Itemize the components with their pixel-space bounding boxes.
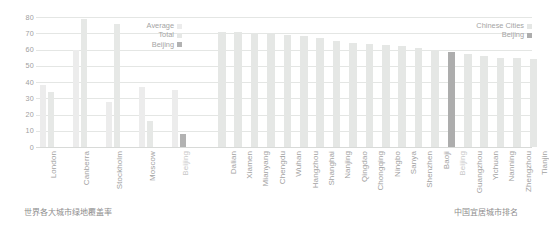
bar-beijing-average — [172, 90, 178, 147]
bar-shanghai — [316, 38, 324, 147]
bar-nanjing — [333, 41, 341, 147]
y-axis: 80706050403020100 — [8, 17, 34, 147]
bar-chongqing — [366, 44, 374, 147]
y-axis-tick-40: 40 — [12, 79, 34, 86]
legend-label: Average — [147, 21, 174, 30]
legend-swatch-icon — [177, 24, 182, 29]
x-axis-label-yichuan: Yichuan — [492, 151, 500, 180]
x-axis-label-hangzhou: Hangzhou — [312, 151, 320, 188]
bar-canberra-total — [81, 19, 87, 147]
x-axis-label-moscow: Moscow — [149, 151, 157, 181]
legend-swatch-icon — [177, 42, 182, 47]
legend-item-beijing: Beijing — [412, 30, 532, 39]
legend-item-chinese-cities: Chinese Cities — [412, 21, 532, 30]
x-axis-label-beijing: Beijing — [182, 151, 190, 176]
bar-moscow-total — [147, 121, 153, 147]
x-axis-label-mianyang: Mianyang — [262, 151, 270, 187]
bar-baoji — [431, 50, 439, 148]
legend-label: Beijing — [152, 40, 174, 49]
y-axis-tick-80: 80 — [12, 14, 34, 21]
y-axis-tick-70: 70 — [12, 30, 34, 37]
bar-beijing — [448, 52, 456, 147]
y-axis-tick-60: 60 — [12, 46, 34, 53]
bar-xiamen — [234, 32, 242, 147]
x-axis-label-wuhan: Wuhan — [295, 151, 303, 177]
legend-world: AverageTotalBeijing — [96, 21, 182, 49]
bar-qingdao — [349, 43, 357, 147]
x-axis-label-shenzhen: Shenzhen — [426, 151, 434, 188]
x-axis-label-zhengzhou: Zhengzhou — [525, 151, 533, 192]
bar-london-total — [48, 92, 54, 147]
legend-label: Chinese Cities — [476, 21, 524, 30]
bar-wuhan — [284, 35, 292, 147]
x-axis-label-chongqing: Chongqing — [377, 151, 385, 191]
bar-canberra-average — [73, 50, 79, 148]
bar-ningbo — [382, 45, 390, 147]
x-axis-label-ningbo: Ningbo — [394, 151, 402, 177]
y-axis-tick-20: 20 — [12, 111, 34, 118]
x-axis-label-tianjin: Tianjin — [541, 151, 549, 175]
x-axis-label-stockholm: Stockholm — [116, 151, 124, 189]
bar-nanning — [497, 58, 505, 147]
x-axis-label-qingdao: Qingdao — [361, 151, 369, 182]
bar-chengdu — [267, 34, 275, 147]
y-axis-tick-50: 50 — [12, 62, 34, 69]
bar-sanya — [398, 46, 406, 147]
bar-london-average — [40, 85, 46, 147]
bar-dalian — [218, 32, 226, 147]
x-axis-label-beijing: Beijing — [459, 151, 467, 176]
y-axis-tick-30: 30 — [12, 95, 34, 102]
x-axis-label-baoji: Baoji — [443, 151, 451, 169]
legend-chinese-cities: Chinese CitiesBeijing — [412, 21, 532, 40]
x-axis-label-shanghai: Shanghai — [328, 151, 336, 186]
bar-beijing-total — [180, 134, 186, 147]
y-axis-tick-0: 0 — [12, 144, 34, 151]
y-axis-tick-10: 10 — [12, 127, 34, 134]
bar-shenzhen — [415, 48, 423, 147]
bar-tianjin — [530, 59, 538, 147]
x-axis-label-nanning: Nanning — [508, 151, 516, 182]
legend-swatch-icon — [527, 33, 532, 38]
x-axis-label-london: London — [50, 151, 58, 178]
x-axis-label-guangzhou: Guangzhou — [476, 151, 484, 193]
legend-label: Total — [158, 30, 174, 39]
bar-moscow-average — [139, 87, 145, 147]
legend-item-beijing: Beijing — [96, 40, 182, 49]
bar-zhengzhou — [513, 58, 521, 147]
bar-guangzhou — [464, 54, 472, 147]
legend-item-total: Total — [96, 30, 182, 39]
x-axis-label-xiamen: Xiamen — [246, 151, 254, 179]
caption-left: 世界各大城市绿地覆盖率 — [24, 206, 112, 217]
bar-stockholm-average — [106, 102, 112, 148]
x-axis-label-canberra: Canberra — [83, 151, 91, 185]
bar-hangzhou — [300, 36, 308, 147]
x-axis-label-nanjing: Nanjing — [344, 151, 352, 179]
gridline-0 — [36, 147, 532, 148]
legend-item-average: Average — [96, 21, 182, 30]
gridline-80 — [36, 17, 532, 18]
bar-yichuan — [480, 56, 488, 147]
legend-label: Beijing — [502, 30, 524, 39]
legend-swatch-icon — [177, 33, 182, 38]
x-axis-label-chengdu: Chengdu — [279, 151, 287, 184]
x-axis-label-dalian: Dalian — [230, 151, 238, 174]
bar-mianyang — [251, 33, 259, 147]
legend-swatch-icon — [527, 24, 532, 29]
x-axis-label-sanya: Sanya — [410, 151, 418, 174]
caption-right: 中国宜居城市排名 — [454, 206, 518, 217]
